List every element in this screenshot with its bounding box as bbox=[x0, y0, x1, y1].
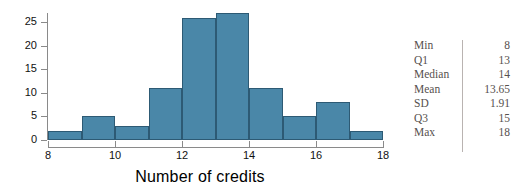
y-axis-tick-label: 20 bbox=[8, 40, 37, 51]
histogram-bar bbox=[249, 88, 283, 140]
stat-label: Mean bbox=[414, 82, 440, 97]
y-axis-tick-label: 25 bbox=[8, 16, 37, 27]
stat-label: Q1 bbox=[414, 53, 428, 68]
y-axis-tick bbox=[41, 22, 47, 23]
histogram-bar bbox=[48, 131, 82, 140]
x-axis-tick-label: 14 bbox=[234, 150, 264, 161]
stat-value: 8 bbox=[504, 38, 510, 53]
x-axis-tick bbox=[48, 141, 49, 147]
table-row: Median14 bbox=[404, 67, 512, 82]
y-axis-tick bbox=[41, 46, 47, 47]
histogram-bar bbox=[82, 116, 116, 140]
x-axis-tick-label: 16 bbox=[301, 150, 331, 161]
x-axis-tick bbox=[383, 141, 384, 147]
stat-value: 13.65 bbox=[484, 82, 510, 97]
x-axis-tick bbox=[115, 141, 116, 147]
histogram-bar bbox=[350, 131, 384, 140]
table-row: Min8 bbox=[404, 38, 512, 53]
histogram-bar bbox=[283, 116, 317, 140]
table-row: Mean13.65 bbox=[404, 82, 512, 97]
stat-label: Min bbox=[414, 38, 433, 53]
stat-label: SD bbox=[414, 96, 429, 111]
stat-value: 1.91 bbox=[490, 96, 510, 111]
x-axis-tick bbox=[249, 141, 250, 147]
y-axis-tick-label: 10 bbox=[8, 87, 37, 98]
x-axis-tick-label: 10 bbox=[100, 150, 130, 161]
histogram-bar bbox=[115, 126, 149, 140]
summary-statistics-table: Min8Q113Median14Mean13.65SD1.91Q315Max18 bbox=[404, 38, 512, 153]
y-axis-tick-label: 5 bbox=[8, 110, 37, 121]
x-axis-title: Number of credits bbox=[0, 168, 400, 186]
table-row: Q315 bbox=[404, 111, 512, 126]
stat-value: 15 bbox=[499, 111, 511, 126]
y-axis-tick bbox=[41, 93, 47, 94]
table-body: Min8Q113Median14Mean13.65SD1.91Q315Max18 bbox=[404, 38, 512, 140]
table-row: Q113 bbox=[404, 53, 512, 68]
y-axis-tick-label: 15 bbox=[8, 63, 37, 74]
stat-value: 18 bbox=[499, 125, 511, 140]
x-axis-tick bbox=[182, 141, 183, 147]
x-axis-tick-label: 12 bbox=[167, 150, 197, 161]
stat-value: 14 bbox=[499, 67, 511, 82]
histogram-bars bbox=[48, 13, 383, 140]
histogram-bar bbox=[149, 88, 183, 140]
y-axis-tick-label: 0 bbox=[8, 134, 37, 145]
table-row: Max18 bbox=[404, 125, 512, 140]
histogram-bar bbox=[182, 18, 216, 140]
stat-label: Max bbox=[414, 125, 435, 140]
x-axis-tick bbox=[316, 141, 317, 147]
x-axis-tick-label: 8 bbox=[33, 150, 63, 161]
x-axis-spine bbox=[48, 147, 384, 148]
histogram-figure: 0510152025 81012141618 Number of credits bbox=[0, 0, 400, 196]
stat-label: Median bbox=[414, 67, 449, 82]
y-axis-tick bbox=[41, 69, 47, 70]
stat-label: Q3 bbox=[414, 111, 428, 126]
histogram-bar bbox=[316, 102, 350, 140]
histogram-bar bbox=[216, 13, 250, 140]
table-row: SD1.91 bbox=[404, 96, 512, 111]
x-axis-tick-label: 18 bbox=[368, 150, 398, 161]
stat-value: 13 bbox=[499, 53, 511, 68]
y-axis-tick bbox=[41, 116, 47, 117]
y-axis-tick bbox=[41, 140, 47, 141]
